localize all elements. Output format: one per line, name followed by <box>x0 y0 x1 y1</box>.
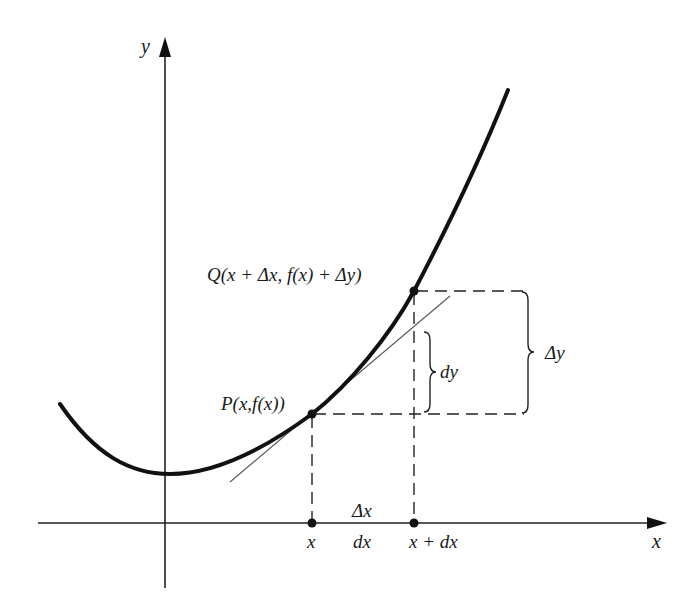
delta-y-label: Δy <box>544 342 565 363</box>
dy-label: dy <box>440 361 459 382</box>
point-p <box>308 410 317 419</box>
point-x-on-axis <box>308 519 317 528</box>
x-axis-label: x <box>651 530 661 552</box>
y-axis-arrow-icon <box>159 37 171 57</box>
differential-diagram: y x Q(x + Δx, f(x) + Δy) P(x,f(x)) dy Δy… <box>0 0 699 608</box>
y-axis-label: y <box>139 35 150 58</box>
x-tick-label: x <box>306 531 316 552</box>
point-q <box>410 287 419 296</box>
x-axis-arrow-icon <box>647 517 667 529</box>
delta-y-brace-icon <box>522 292 534 413</box>
delta-x-label: Δx <box>351 500 372 521</box>
dx-label: dx <box>353 531 372 552</box>
point-p-label: P(x,f(x)) <box>220 393 285 415</box>
x-plus-dx-label: x + dx <box>408 531 458 552</box>
point-x-plus-dx-on-axis <box>410 519 419 528</box>
dy-brace-icon <box>424 332 436 412</box>
dashed-guides <box>312 291 524 520</box>
point-q-label: Q(x + Δx, f(x) + Δy) <box>207 264 362 286</box>
